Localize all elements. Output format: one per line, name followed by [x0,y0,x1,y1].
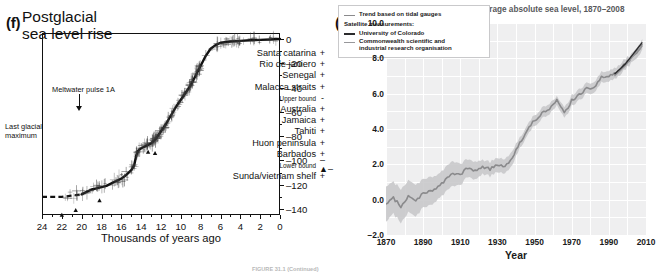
y-tick [280,185,284,186]
grid-line-vertical [646,23,647,235]
x-tick-minor [52,215,53,217]
x-tick-label: 4 [238,221,243,232]
x-tick-label: 16 [116,221,127,232]
y-tick-minor [280,148,282,149]
annotation-meltwater-pulse: Meltwater pulse 1A [52,85,115,94]
x-tick-label: 1970 [562,237,581,247]
y-tick-minor [280,124,282,125]
x-tick [141,215,142,219]
x-tick-label: 1890 [414,237,433,247]
x-tick-minor [151,215,152,217]
x-tick-label: 14 [136,221,147,232]
x-tick-minor [171,215,172,217]
legend-symbol: + [319,139,326,148]
panel-f-y-axis: 0–20–40–60–80–100–120–140 [280,33,320,215]
x-tick [240,215,241,219]
x-tick-label: 20 [76,221,87,232]
x-tick [221,215,222,219]
panel-g-y-axis-title: Change in sea level (inches) [354,0,370,23]
panel-f-title-line2: sea level rise [22,25,112,42]
y-tick-label: –80 [286,131,302,142]
x-tick-label: 8 [198,221,203,232]
panel-g-x-axis-title: Year [386,250,646,261]
x-tick [62,215,63,219]
y-tick-label: –60 [286,106,302,117]
y-tick-label: 6.0 [372,89,384,99]
x-tick-label: 0 [277,221,282,232]
legend-symbol: + [319,127,326,136]
x-tick [161,215,162,219]
y-tick-label: 10.0 [368,18,384,28]
y-tick-label: 2.0 [372,159,384,169]
x-tick-label: 6 [218,221,223,232]
x-tick-minor [72,215,73,217]
x-tick-minor [230,215,231,217]
x-tick [260,215,261,219]
y-tick [280,112,284,113]
grid-line-horizontal [386,235,646,236]
x-tick-label: 1870 [377,237,396,247]
y-tick-label: 0.0 [372,195,384,205]
x-tick-label: 2010 [637,237,656,247]
panel-g-global-sea-level-trend: (g) Trends in global average absolute se… [330,0,660,276]
panel-f-postglacial-sea-level: (f) Postglacial sea level rise Meltwater… [0,0,330,276]
x-tick [102,215,103,219]
x-tick-label: 1930 [488,237,507,247]
y-tick-label: 8.0 [372,53,384,63]
panel-g-y-axis-labels: 10.08.06.04.02.00.0−2.0 [352,23,384,235]
y-tick [280,63,284,64]
legend-label-tidal: Trend based on tidal gauges [359,10,441,17]
x-tick-minor [270,215,271,217]
x-tick-label: 18 [96,221,107,232]
panel-g-x-axis-labels: 18701890191019301950197019902010 [386,237,646,251]
legend-symbol: + [319,83,326,92]
x-tick-minor [191,215,192,217]
y-tick-label: –40 [286,82,302,93]
x-tick-label: 1910 [451,237,470,247]
x-tick-label: 22 [56,221,67,232]
annotation-last-glacial-maximum: Last glacial maximum [5,122,42,140]
y-tick-label: –20 [286,58,302,69]
x-tick [280,215,281,219]
y-tick [280,39,284,40]
x-tick-minor [131,215,132,217]
x-tick-minor [211,215,212,217]
x-tick [121,215,122,219]
y-tick-label: –100 [286,155,307,166]
x-tick-label: 12 [156,221,167,232]
legend-symbol: + [319,172,326,181]
x-tick [201,215,202,219]
y-tick-label: 4.0 [372,124,384,134]
legend-symbol: + [319,49,326,58]
x-tick-label: 1950 [525,237,544,247]
legend-symbol: + [319,116,326,125]
y-tick [280,136,284,137]
panel-f-title-line1: Postglacial [22,8,112,25]
figure-caption: FIGURE 31.1 (Continued) [252,266,319,272]
lgm-line1: Last glacial [5,122,42,131]
legend-symbol: - [319,94,326,103]
y-tick [280,88,284,89]
y-tick-minor [280,173,282,174]
panel-f-x-axis-title: Thousands of years ago [42,232,280,244]
lgm-line2: maximum [5,131,42,140]
x-tick-minor [250,215,251,217]
y-tick-label: –140 [286,203,307,214]
x-tick-minor [92,215,93,217]
x-tick-label: 10 [175,221,186,232]
x-tick-label: 1990 [600,237,619,247]
y-tick-minor [280,197,282,198]
x-tick-minor [111,215,112,217]
x-tick-label: 24 [37,221,48,232]
y-tick [280,209,284,210]
x-tick [42,215,43,219]
legend-symbol: + [319,60,326,69]
panel-f-label: (f) [6,14,20,31]
legend-symbol: + [319,105,326,114]
x-tick-label: 2 [257,221,262,232]
y-tick-minor [280,100,282,101]
x-tick [181,215,182,219]
y-tick-label: 0 [286,34,291,45]
legend-symbol: + [319,71,326,80]
y-tick-minor [280,75,282,76]
